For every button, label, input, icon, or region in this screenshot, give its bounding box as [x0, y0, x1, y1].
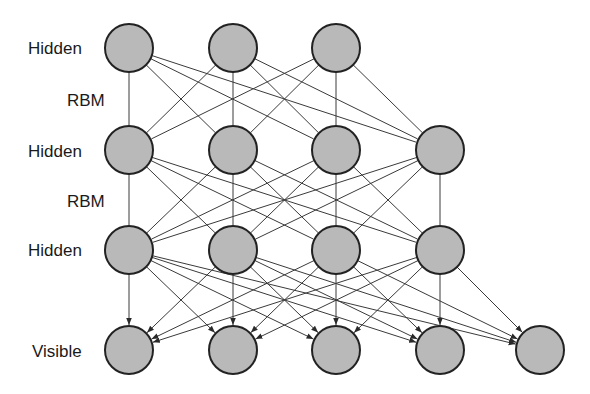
node-h1-3: [416, 226, 464, 274]
label-hidden-middle: Hidden: [28, 143, 82, 160]
node-v-1: [209, 326, 257, 374]
label-visible: Visible: [32, 343, 82, 360]
label-rbm-1: RBM: [67, 92, 105, 109]
edge-h3-2-to-h2-3: [353, 65, 422, 133]
node-h3-1: [209, 24, 257, 72]
node-h2-1: [209, 126, 257, 174]
node-h2-3: [416, 126, 464, 174]
node-h3-2: [312, 24, 360, 72]
node-v-2: [312, 326, 360, 374]
edge-h1-3-to-v-4: [457, 267, 522, 332]
node-h3-0: [105, 24, 153, 72]
label-hidden-bottom: Hidden: [28, 242, 82, 259]
node-h2-0: [105, 126, 153, 174]
node-v-3: [416, 326, 464, 374]
label-hidden-top: Hidden: [28, 40, 82, 57]
node-h1-1: [209, 226, 257, 274]
label-rbm-2: RBM: [67, 193, 105, 210]
node-h1-2: [312, 226, 360, 274]
edges-group: [129, 56, 522, 345]
node-v-0: [105, 326, 153, 374]
node-v-4: [516, 326, 564, 374]
node-h1-0: [105, 226, 153, 274]
node-h2-2: [312, 126, 360, 174]
